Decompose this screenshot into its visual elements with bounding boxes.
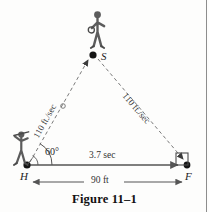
vertex-dot-S <box>89 51 96 58</box>
angle-label-60: 60° <box>45 147 59 157</box>
ball-marker-H <box>27 156 34 165</box>
person-fielder <box>88 11 104 48</box>
person-batter <box>14 131 29 164</box>
vertex-label-H: H <box>20 171 28 182</box>
vertex-label-F: F <box>185 171 192 182</box>
vertex-label-S: S <box>101 51 107 62</box>
baseline-distance-label: 90 ft <box>91 176 109 186</box>
figure-11-1: H S F 60° 110 ft./sec 110 ft./sec 3.7 se… <box>0 0 209 212</box>
baseline-time-label: 3.7 sec <box>89 151 115 161</box>
page-rule <box>206 0 207 212</box>
edge-H-S <box>30 60 88 162</box>
figure-caption: Figure 11–1 <box>0 192 209 207</box>
